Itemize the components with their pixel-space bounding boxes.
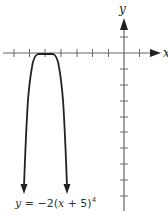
y-axis-arrow-icon bbox=[120, 18, 128, 30]
y-axis: y bbox=[118, 2, 128, 211]
x-axis-arrow-icon bbox=[150, 49, 161, 57]
curve-left-arrow-icon bbox=[21, 184, 28, 194]
x-axis-label: x bbox=[163, 46, 168, 60]
equation-exponent: 4 bbox=[92, 196, 97, 204]
function-graph: x y y = −2(x + 5)4 bbox=[0, 0, 168, 216]
equation-label: y = −2(x + 5)4 bbox=[14, 196, 97, 210]
function-curve bbox=[24, 54, 67, 186]
equation-body: = −2( bbox=[21, 197, 58, 210]
x-axis: x bbox=[3, 46, 168, 60]
y-axis-label: y bbox=[118, 2, 126, 16]
curve-right-arrow-icon bbox=[64, 184, 71, 194]
equation-tail: + 5) bbox=[64, 197, 92, 210]
